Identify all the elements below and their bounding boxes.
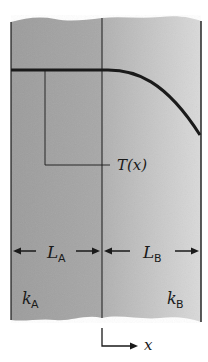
svg-text:B: B [154, 252, 162, 265]
x-axis-indicator: x [102, 328, 153, 354]
svg-text:A: A [31, 298, 39, 311]
svg-text:A: A [58, 252, 66, 265]
x-axis-label: x [144, 336, 153, 354]
svg-text:B: B [176, 298, 184, 311]
temperature-label: T(x) [117, 156, 147, 174]
svg-text:L: L [46, 242, 58, 262]
svg-text:L: L [142, 242, 154, 262]
composite-wall-diagram: T(x) L A L B k A k B x [0, 0, 208, 362]
